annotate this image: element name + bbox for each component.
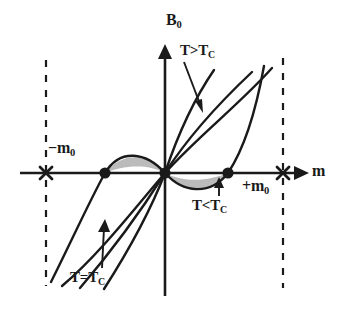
annotation-arrow-t-equal-shaft bbox=[102, 228, 104, 268]
label-t-equal-tc: T=TC bbox=[70, 270, 105, 287]
dot-origin bbox=[159, 167, 170, 178]
horizontal-axis-label: m bbox=[312, 163, 325, 179]
dot-left-spinodal bbox=[99, 167, 110, 178]
horizontal-axis-arrowhead bbox=[294, 166, 309, 180]
label-positive-m0: +m0 bbox=[242, 178, 269, 197]
annotation-arrow-t-equal-head bbox=[98, 219, 110, 232]
vertical-axis-arrowhead bbox=[158, 44, 172, 59]
label-t-greater-than-tc: T>TC bbox=[180, 43, 215, 60]
vertical-axis-label: B0 bbox=[166, 12, 182, 31]
isotherm-curves bbox=[51, 66, 272, 289]
label-t-less-than-tc: T<TC bbox=[192, 198, 227, 215]
label-negative-m0: −m0 bbox=[48, 140, 75, 159]
magnetization-phase-diagram: B0 T>TC −m0 m +m0 T<TC T=TC bbox=[0, 0, 349, 312]
dot-right-spinodal bbox=[222, 167, 233, 178]
annotation-arrow-t-greater-shaft bbox=[184, 62, 200, 104]
annotation-arrow-t-greater-head bbox=[195, 99, 203, 113]
